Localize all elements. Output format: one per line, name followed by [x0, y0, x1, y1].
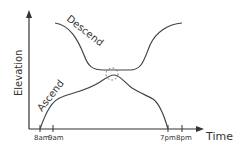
y-axis-label: Elevation — [13, 50, 24, 96]
elevation-time-diagram: 8am 9am 7pm 8pm Time Elevation Descend A… — [0, 0, 239, 150]
ascend-label: Ascend — [35, 78, 66, 113]
tick-label-7pm: 7pm — [160, 134, 176, 142]
x-axis-label: Time — [205, 130, 233, 143]
tick-label-8pm: 8pm — [176, 134, 192, 142]
descend-curve — [55, 23, 182, 70]
descend-label: Descend — [65, 13, 106, 48]
tick-label-9am: 9am — [48, 134, 64, 142]
x-axis-arrow-icon — [196, 126, 204, 132]
y-axis-arrow-icon — [26, 10, 32, 18]
